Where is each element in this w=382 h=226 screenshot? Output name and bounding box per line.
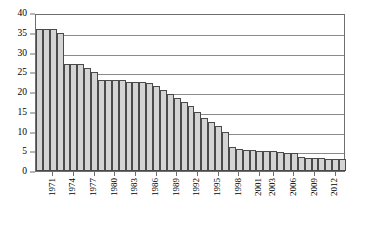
bar	[222, 132, 229, 172]
bar	[250, 150, 257, 171]
bar	[160, 90, 167, 171]
y-tick-label: 35	[18, 29, 28, 39]
x-axis: 1971197419771980198319861989199219951998…	[35, 172, 345, 226]
bar	[243, 150, 250, 171]
x-tick-label: 2006	[289, 178, 298, 196]
x-tick-label: 2012	[330, 178, 339, 196]
x-tick-mark	[314, 172, 315, 176]
bar	[146, 83, 153, 171]
x-tick-label: 2009	[310, 178, 319, 196]
bar	[208, 122, 215, 171]
bar	[229, 147, 236, 171]
x-tick-mark	[293, 172, 294, 176]
bar	[84, 68, 91, 171]
bar	[305, 158, 312, 171]
y-tick-label: 30	[18, 49, 28, 59]
bar	[132, 82, 139, 171]
bar	[43, 29, 50, 171]
bar	[339, 159, 346, 171]
bar	[318, 158, 325, 171]
bar	[64, 64, 71, 171]
x-tick-label: 1983	[130, 178, 139, 196]
bar	[188, 106, 195, 171]
bar	[291, 153, 298, 171]
y-tick-label: 0	[22, 167, 27, 177]
bar	[167, 94, 174, 171]
x-tick-mark	[218, 172, 219, 176]
bar-chart: 0510152025303540 19711974197719801983198…	[0, 0, 382, 226]
y-tick-label: 5	[22, 148, 27, 158]
bar	[325, 159, 332, 171]
bar	[284, 153, 291, 171]
plot-area	[35, 14, 345, 172]
x-tick-mark	[73, 172, 74, 176]
y-tick-label: 10	[18, 128, 28, 138]
x-tick-mark	[135, 172, 136, 176]
x-tick-mark	[259, 172, 260, 176]
x-tick-label: 1989	[172, 178, 181, 196]
bar	[181, 102, 188, 171]
x-tick-label: 1992	[192, 178, 201, 196]
bar	[298, 157, 305, 171]
bar	[112, 80, 119, 171]
y-tick-label: 15	[18, 108, 28, 118]
bar	[263, 151, 270, 171]
x-tick-label: 1986	[151, 178, 160, 196]
bar	[236, 149, 243, 171]
x-tick-label: 2003	[268, 178, 277, 196]
x-tick-mark	[52, 172, 53, 176]
bar	[270, 151, 277, 171]
y-tick-label: 20	[18, 88, 28, 98]
x-tick-label: 1971	[48, 178, 57, 196]
x-tick-label: 1995	[213, 178, 222, 196]
x-tick-label: 1977	[89, 178, 98, 196]
x-tick-mark	[197, 172, 198, 176]
x-tick-mark	[238, 172, 239, 176]
x-tick-mark	[335, 172, 336, 176]
x-tick-mark	[176, 172, 177, 176]
bar	[194, 112, 201, 171]
bar	[332, 159, 339, 171]
x-tick-mark	[156, 172, 157, 176]
bars-series	[36, 15, 344, 171]
bar	[36, 29, 43, 171]
bar	[277, 152, 284, 171]
bar	[70, 64, 77, 171]
bar	[126, 82, 133, 171]
x-tick-label: 2001	[254, 178, 263, 196]
bar	[77, 64, 84, 171]
bar	[201, 118, 208, 171]
bar	[139, 82, 146, 171]
bar	[98, 80, 105, 171]
x-tick-mark	[273, 172, 274, 176]
bar	[91, 72, 98, 171]
x-tick-label: 1980	[110, 178, 119, 196]
bar	[119, 80, 126, 171]
bar	[50, 29, 57, 171]
y-axis: 0510152025303540	[0, 0, 35, 180]
bar	[57, 33, 64, 171]
bar	[256, 151, 263, 171]
y-tick-label: 25	[18, 69, 28, 79]
x-tick-label: 1998	[234, 178, 243, 196]
bar	[215, 126, 222, 171]
x-tick-mark	[114, 172, 115, 176]
x-tick-label: 1974	[68, 178, 77, 196]
bar	[312, 158, 319, 171]
x-tick-mark	[94, 172, 95, 176]
bar	[153, 86, 160, 171]
bar	[105, 80, 112, 171]
y-tick-label: 40	[18, 9, 28, 19]
bar	[174, 98, 181, 171]
